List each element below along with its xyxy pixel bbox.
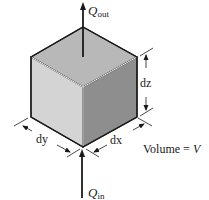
cube [31,27,137,147]
dx-label: dx [110,133,122,147]
cube-diagram: Qout Qin dz dy dx Volume = V [0,0,209,200]
volume-label: Volume = V [143,142,202,156]
dz-dimension: dz [140,48,153,116]
q-in-label: Qin [88,185,105,200]
dz-label: dz [140,76,151,90]
q-out-label: Qout [88,3,109,19]
dy-label: dy [36,132,48,146]
